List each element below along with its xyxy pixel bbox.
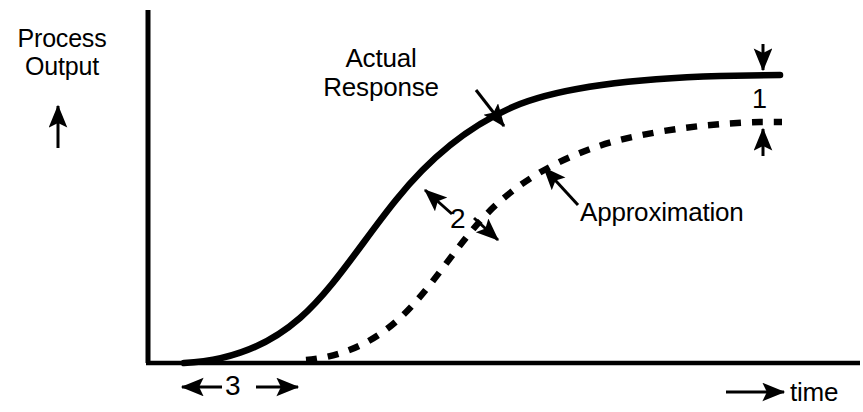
actual-response-label: Actual Response: [296, 44, 466, 102]
dimension-2-upper-left-arrow-icon: [425, 190, 452, 214]
axes-group: [146, 10, 860, 363]
y-axis-label: Process Output: [6, 24, 118, 80]
approximation-label: Approximation: [580, 198, 744, 227]
dimension-1-label: 1: [752, 84, 767, 114]
x-axis-label: time: [790, 378, 838, 407]
dimension-3-label: 3: [225, 370, 240, 401]
dimension-2-lower-right-arrow-icon: [474, 218, 498, 240]
dimension-2-label: 2: [450, 203, 465, 234]
approximation-leader-arrow-icon: [544, 168, 578, 205]
approximation-curve: [306, 122, 782, 360]
figure-canvas: Process Output Actual Response Approxima…: [0, 0, 863, 412]
